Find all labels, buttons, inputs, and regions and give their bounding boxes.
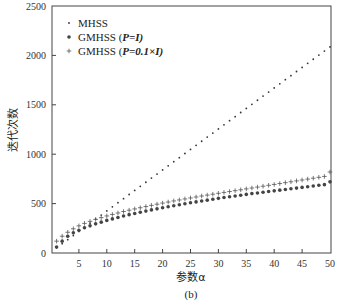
data-point <box>183 202 187 206</box>
data-point <box>200 199 204 203</box>
data-point <box>151 177 153 179</box>
data-point <box>139 185 141 187</box>
data-point <box>296 71 298 73</box>
data-point <box>328 180 332 184</box>
data-point <box>295 186 299 190</box>
data-point <box>289 187 293 191</box>
data-point <box>65 230 70 235</box>
data-point <box>184 153 186 155</box>
data-point <box>99 220 103 224</box>
data-point <box>261 184 266 189</box>
data-point <box>111 217 115 221</box>
data-point <box>183 197 188 202</box>
data-point <box>289 179 294 184</box>
data-point <box>239 193 243 197</box>
data-point <box>60 239 64 243</box>
data-point <box>323 183 327 187</box>
data-point <box>277 181 282 186</box>
data-point <box>317 175 322 180</box>
data-point <box>257 99 259 101</box>
x-tick-label: 5 <box>76 258 81 269</box>
data-point <box>190 149 192 151</box>
data-point <box>311 176 316 181</box>
data-point <box>305 177 310 182</box>
data-point <box>88 219 93 224</box>
data-point <box>250 186 255 191</box>
data-point <box>171 199 176 204</box>
data-point <box>68 22 70 24</box>
data-point <box>267 190 271 194</box>
data-point <box>54 239 59 244</box>
legend: MHSSGMHSS (P=I)GMHSS (P=0.1×I) <box>67 17 164 58</box>
data-point <box>199 194 204 199</box>
chart: 05001000150020002500 5101520253035404550… <box>0 0 337 306</box>
data-point <box>162 169 164 171</box>
data-point <box>223 124 225 126</box>
data-point <box>67 49 72 54</box>
data-point <box>317 184 321 188</box>
y-tick-label: 2000 <box>26 50 46 61</box>
data-point <box>290 75 292 77</box>
x-axis-title: 参数α <box>176 270 205 284</box>
legend-item: GMHSS (P=I) <box>67 31 143 44</box>
plot-frame <box>52 6 331 253</box>
data-point <box>206 136 208 138</box>
data-point <box>312 58 314 60</box>
data-point <box>301 67 303 69</box>
data-point <box>222 190 227 195</box>
data-point <box>216 191 221 196</box>
x-tick-label: 50 <box>325 258 335 269</box>
data-point <box>160 201 165 206</box>
data-point <box>205 193 210 198</box>
data-point <box>155 207 159 211</box>
legend-label: MHSS <box>78 17 108 29</box>
data-point <box>294 179 299 184</box>
data-point <box>211 197 215 201</box>
data-point <box>106 210 108 212</box>
data-point <box>88 224 92 228</box>
data-point <box>161 206 165 210</box>
data-point <box>105 219 109 223</box>
data-series <box>54 46 332 249</box>
data-point <box>144 204 149 209</box>
data-point <box>94 222 98 226</box>
series-1 <box>56 46 331 249</box>
x-tick-label: 35 <box>241 258 251 269</box>
data-point <box>205 198 209 202</box>
data-point <box>123 198 125 200</box>
legend-item: MHSS <box>68 17 108 29</box>
data-point <box>189 201 193 205</box>
data-point <box>233 188 238 193</box>
x-axis: 5101520253035404550 <box>76 249 335 269</box>
data-point <box>116 216 120 220</box>
x-tick-label: 25 <box>186 258 196 269</box>
y-tick-label: 500 <box>31 198 46 209</box>
data-point <box>234 116 236 118</box>
data-point <box>306 185 310 189</box>
data-point <box>245 193 249 197</box>
legend-label: GMHSS (P=I) <box>78 31 143 44</box>
data-point <box>212 132 214 134</box>
data-point <box>229 120 231 122</box>
data-point <box>218 128 220 130</box>
data-point <box>67 239 69 241</box>
data-point <box>324 50 326 52</box>
data-point <box>194 200 198 204</box>
data-point <box>72 231 76 235</box>
data-point <box>279 83 281 85</box>
data-point <box>266 183 271 188</box>
data-point <box>273 87 275 89</box>
data-point <box>245 108 247 110</box>
data-point <box>261 190 265 194</box>
data-point <box>222 196 226 200</box>
y-tick-label: 2500 <box>26 1 46 12</box>
data-point <box>194 195 199 200</box>
data-point <box>177 198 182 203</box>
data-point <box>138 205 143 210</box>
data-point <box>138 210 142 214</box>
data-point <box>188 196 193 201</box>
data-point <box>284 188 288 192</box>
data-point <box>195 144 197 146</box>
data-point <box>300 178 305 183</box>
x-tick-label: 10 <box>102 258 112 269</box>
